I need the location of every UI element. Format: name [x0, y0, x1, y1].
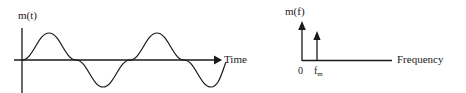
tick-label-fm-subscript: m: [317, 70, 322, 78]
signal-spectrum-figure: m(t) Time m(f) Frequency 0 fm: [0, 0, 466, 93]
tick-label-fm: fm: [314, 66, 323, 76]
impulse-arrowhead-fm: [313, 31, 320, 40]
tick-label-origin: 0: [298, 66, 303, 76]
frequency-domain-panel: m(f) Frequency 0 fm: [233, 0, 466, 93]
frequency-domain-plot: [233, 0, 466, 93]
time-domain-panel: m(t) Time: [0, 0, 233, 93]
freq-y-axis-arrowhead: [298, 21, 306, 30]
frequency-signal-label: m(f): [285, 6, 305, 17]
time-axis-arrowhead: [214, 56, 222, 65]
time-signal-label: m(t): [18, 10, 37, 21]
frequency-axis-label: Frequency: [397, 54, 443, 65]
